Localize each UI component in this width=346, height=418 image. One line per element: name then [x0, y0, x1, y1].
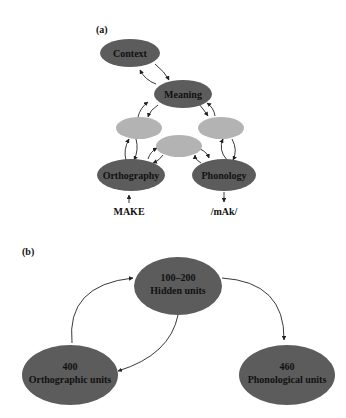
hidden-units-name: Hidden units — [150, 285, 205, 296]
arrow-context-to-meaning — [155, 64, 169, 80]
arrow-hidden-mid-to-orth — [153, 155, 163, 163]
output-label: /mAk/ — [210, 206, 238, 217]
phonological-units-name: Phonological units — [248, 374, 327, 385]
panel-a-label: (a) — [96, 24, 108, 36]
arrow-orth-to-hidden — [72, 278, 133, 343]
arrow-hidden-to-orth — [118, 315, 178, 371]
hidden-node-middle — [156, 135, 202, 157]
arrow-hidden-right-to-phon — [232, 139, 235, 160]
diagram-canvas: (a) Context Meaning Orthography Phonolog… — [0, 0, 346, 418]
node-orthography-label: Orthography — [103, 170, 160, 181]
arrow-phon-to-hidden-mid — [195, 155, 201, 163]
arrow-meaning-to-hidden-right — [199, 104, 208, 116]
arrow-hidden-left-to-meaning — [138, 102, 148, 117]
node-meaning-label: Meaning — [164, 89, 202, 100]
phonological-units-count: 460 — [280, 361, 295, 372]
arrow-meaning-to-context — [140, 70, 156, 84]
arrow-meaning-to-hidden-left — [148, 105, 158, 117]
orthographic-units-count: 400 — [63, 361, 78, 372]
node-context-label: Context — [113, 48, 148, 59]
panel-b-label: (b) — [22, 246, 34, 258]
arrow-hidden-right-to-meaning — [207, 103, 215, 116]
orthographic-units-name: Orthographic units — [29, 374, 112, 385]
arrow-hidden-mid-to-phon — [200, 149, 209, 158]
node-phonology-label: Phonology — [201, 170, 246, 181]
hidden-units-count: 100–200 — [161, 272, 196, 283]
arrow-orth-to-hidden-mid — [148, 148, 157, 159]
arrow-phon-to-hidden-right — [221, 139, 227, 160]
input-label: MAKE — [113, 206, 144, 217]
hidden-node-left — [116, 117, 162, 139]
arrow-hidden-to-phon — [222, 278, 284, 340]
arrow-hidden-left-to-orth — [134, 139, 137, 160]
arrow-orth-to-hidden-left — [125, 139, 129, 160]
hidden-node-right — [198, 117, 244, 139]
